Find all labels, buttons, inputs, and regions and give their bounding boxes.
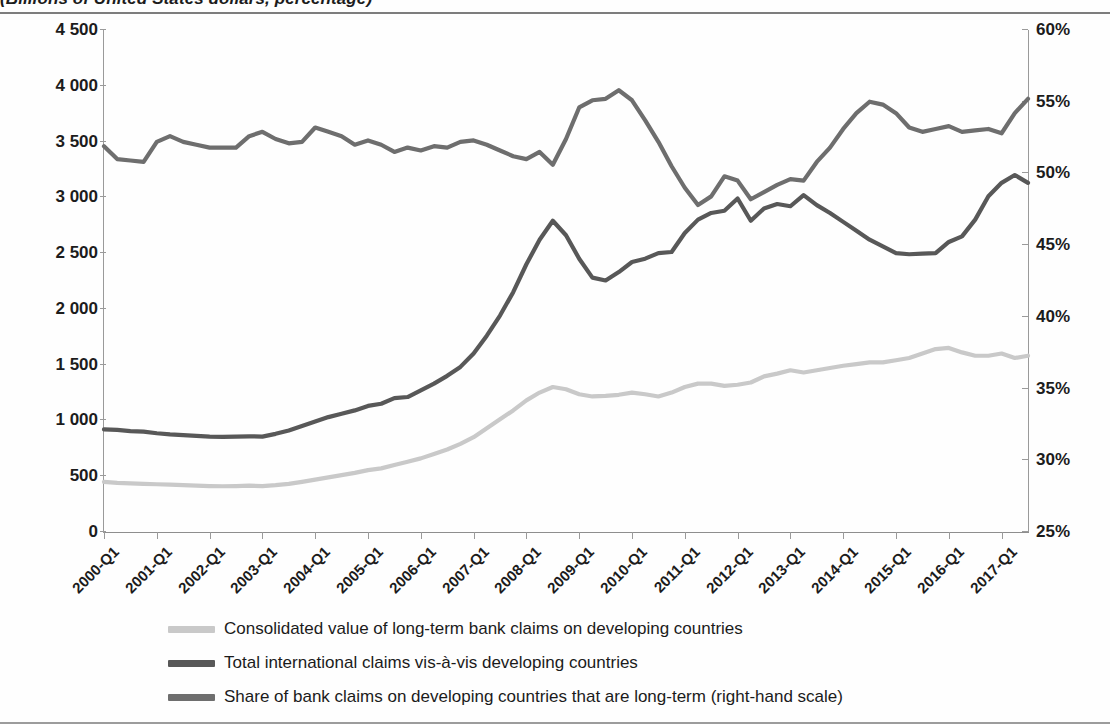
x-axis-tick-mark [262, 532, 263, 539]
y-axis-right-tick-label: 30% [1036, 450, 1110, 470]
x-axis-tick-mark [157, 532, 158, 539]
y-axis-right-tick-label: 60% [1036, 20, 1110, 40]
y-axis-left-tick-label: 4 000 [8, 76, 98, 96]
x-axis-tick-label: 2002-Q1 [174, 543, 227, 596]
y-axis-right-tick-label: 45% [1036, 235, 1110, 255]
x-axis-tick-label: 2016-Q1 [914, 543, 967, 596]
x-axis-tick-label: 2008-Q1 [491, 543, 544, 596]
y-axis-right-tick-label: 40% [1036, 307, 1110, 327]
x-axis-tick-mark [843, 532, 844, 539]
legend-swatch-total [168, 660, 215, 667]
series-line-share-of-bank [104, 90, 1028, 205]
x-axis-tick-label: 2006-Q1 [386, 543, 439, 596]
x-axis-tick-mark [104, 532, 105, 539]
x-axis-tick-mark [474, 532, 475, 539]
legend-item-label: Share of bank claims on developing count… [224, 687, 843, 707]
y-axis-left-tick-label: 0 [8, 522, 98, 542]
x-axis-tick-mark [685, 532, 686, 539]
legend-swatch-share [168, 694, 215, 701]
y-axis-left-tick-label: 3 500 [8, 132, 98, 152]
x-axis-tick-label: 2009-Q1 [544, 543, 597, 596]
y-axis-right-tick-label: 50% [1036, 163, 1110, 183]
x-axis-line [104, 532, 1029, 533]
x-axis-tick-label: 2015-Q1 [861, 543, 914, 596]
y-axis-left-tick-label: 500 [8, 466, 98, 486]
y-axis-right-tick-label: 55% [1036, 92, 1110, 112]
x-axis-tick-label: 2012-Q1 [702, 543, 755, 596]
chart-legend: Consolidated value of long-term bank cla… [168, 612, 1068, 714]
y-axis-left-tick-label: 2 000 [8, 299, 98, 319]
x-axis-tick-label: 2000-Q1 [69, 543, 122, 596]
plot-area [104, 30, 1028, 532]
x-axis-tick-label: 2004-Q1 [280, 543, 333, 596]
x-axis-tick-label: 2010-Q1 [597, 543, 650, 596]
series-line-consolidated-value-of [104, 348, 1028, 486]
y-axis-left-tick-label: 2 500 [8, 243, 98, 263]
x-axis-tick-mark [896, 532, 897, 539]
x-axis-tick-label: 2013-Q1 [755, 543, 808, 596]
legend-item-label: Total international claims vis-à-vis dev… [224, 653, 638, 673]
x-axis-tick-mark [949, 532, 950, 539]
y-axis-right-tick-label: 25% [1036, 522, 1110, 542]
y-axis-right-tick-label: 35% [1036, 379, 1110, 399]
x-axis-tick-mark [421, 532, 422, 539]
x-axis-tick-mark [1002, 532, 1003, 539]
x-axis-tick-mark [738, 532, 739, 539]
x-axis-tick-mark [210, 532, 211, 539]
x-axis-tick-mark [315, 532, 316, 539]
x-axis-tick-label: 2001-Q1 [122, 543, 175, 596]
x-axis-tick-label: 2003-Q1 [227, 543, 280, 596]
legend-item-label: Consolidated value of long-term bank cla… [224, 619, 743, 639]
top-divider-rule [0, 12, 1110, 14]
x-axis-tick-label: 2014-Q1 [808, 543, 861, 596]
x-axis-tick-label: 2017-Q1 [966, 543, 1019, 596]
x-axis-tick-mark [632, 532, 633, 539]
y-axis-left-tick-label: 3 000 [8, 187, 98, 207]
legend-swatch-consolidated [168, 626, 215, 633]
legend-item[interactable]: Share of bank claims on developing count… [168, 680, 1068, 714]
x-axis-tick-mark [368, 532, 369, 539]
x-axis-tick-mark [790, 532, 791, 539]
legend-item[interactable]: Consolidated value of long-term bank cla… [168, 612, 1068, 646]
y-axis-left-tick-label: 4 500 [8, 20, 98, 40]
x-axis-tick-label: 2007-Q1 [438, 543, 491, 596]
series-line-total-international-claims [104, 175, 1028, 437]
x-axis-tick-label: 2011-Q1 [650, 543, 703, 596]
y-axis-left-tick-label: 1 500 [8, 355, 98, 375]
y-axis-right-line [1028, 30, 1029, 533]
figure-subtitle: (Billions of United States dollars, perc… [0, 0, 372, 9]
y-axis-left-tick-label: 1 000 [8, 410, 98, 430]
x-axis-tick-mark [579, 532, 580, 539]
figure-root: (Billions of United States dollars, perc… [0, 0, 1110, 724]
x-axis-tick-label: 2005-Q1 [333, 543, 386, 596]
x-axis-tick-mark [526, 532, 527, 539]
legend-item[interactable]: Total international claims vis-à-vis dev… [168, 646, 1068, 680]
series-lines [104, 30, 1028, 532]
